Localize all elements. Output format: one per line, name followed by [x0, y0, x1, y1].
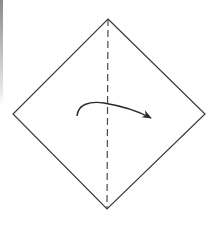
origami-diagram [0, 0, 209, 225]
valley-fold-dashed-line [107, 19, 108, 209]
paper-diamond-outline [13, 19, 205, 209]
fold-direction-arrow-icon [77, 102, 151, 118]
diagram-svg [0, 0, 209, 225]
